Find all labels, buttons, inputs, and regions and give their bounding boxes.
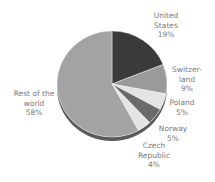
label-text: Czech <box>138 141 170 151</box>
label-text: Rest of the <box>14 89 55 99</box>
label-text: land <box>172 75 202 85</box>
label-percent: 5% <box>169 108 194 118</box>
label-text: Norway <box>159 124 187 134</box>
label-text: States <box>154 21 179 31</box>
pie-slices <box>57 31 167 137</box>
label-percent: 9% <box>172 84 202 94</box>
label-czech-republic: CzechRepublic4% <box>138 141 170 170</box>
label-text: Switzer- <box>172 65 202 75</box>
label-percent: 19% <box>154 30 179 40</box>
label-text: Republic <box>138 151 170 161</box>
label-united-states: UnitedStates19% <box>154 11 179 40</box>
label-rest-of-the-world: Rest of theworld58% <box>14 89 55 118</box>
label-switzerland: Switzer-land9% <box>172 65 202 94</box>
label-percent: 58% <box>14 108 55 118</box>
label-text: world <box>14 99 55 109</box>
label-percent: 4% <box>138 160 170 170</box>
label-poland: Poland5% <box>169 98 194 117</box>
label-text: United <box>154 11 179 21</box>
label-text: Poland <box>169 98 194 108</box>
